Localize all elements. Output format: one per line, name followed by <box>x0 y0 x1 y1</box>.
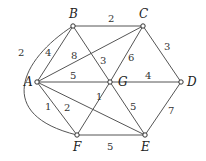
node-label-f: F <box>72 140 82 154</box>
edge-a-f <box>37 82 77 135</box>
node-a <box>35 80 39 84</box>
edge-d-e <box>145 82 181 135</box>
node-label-c: C <box>139 7 148 21</box>
edge-g-f <box>77 82 110 135</box>
edge-weight-d-e: 7 <box>168 105 174 116</box>
node-label-d: D <box>186 75 197 89</box>
edge-weight-b-f: 2 <box>18 47 24 58</box>
node-c <box>141 24 145 28</box>
edge-weight-g-e: 5 <box>130 101 136 112</box>
node-label-g: G <box>118 75 128 89</box>
edge-weight-g-d: 4 <box>145 70 151 81</box>
node-label-b: B <box>68 7 78 21</box>
edge-g-e <box>110 82 145 135</box>
edge-weight-b-g: 3 <box>100 55 106 66</box>
edge-b-g <box>73 26 110 82</box>
node-f <box>75 133 79 137</box>
edge-weight-a-e: 2 <box>64 102 70 113</box>
edge-weight-b-c: 2 <box>108 13 114 24</box>
node-label-e: E <box>140 140 150 154</box>
edge-weight-e-f: 5 <box>107 141 113 152</box>
edge-weight-c-g: 6 <box>128 52 134 63</box>
weighted-graph: 237514836545122 ABCDEFG <box>0 0 206 161</box>
edge-weight-a-c: 8 <box>71 50 77 61</box>
edge-weight-a-b: 4 <box>45 47 51 58</box>
edge-weight-a-f: 1 <box>45 101 51 112</box>
node-label-a: A <box>23 75 33 89</box>
edge-a-b <box>37 26 73 82</box>
node-b <box>71 24 75 28</box>
node-d <box>179 80 183 84</box>
edge-weight-g-f: 1 <box>96 91 102 102</box>
node-e <box>143 133 147 137</box>
node-g <box>108 80 112 84</box>
edge-weight-c-d: 3 <box>164 41 170 52</box>
edge-weight-a-g: 5 <box>70 70 76 81</box>
